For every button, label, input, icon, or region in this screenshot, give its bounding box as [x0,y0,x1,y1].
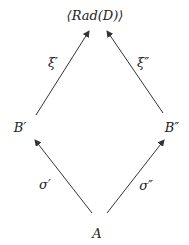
arrow-xi-double-prime [107,31,163,113]
label-sigma-prime: σ′ [39,178,51,191]
node-a: A [92,227,101,240]
arrow-xi-prime [36,31,89,115]
label-xi-prime: ξ′ [48,56,58,69]
diagram-arrows [0,0,189,245]
node-b-prime: B′ [14,121,27,134]
node-rad-d: ⟨Rad(D)⟩ [67,9,124,22]
label-sigma-double-prime: σ″ [139,179,153,192]
arrow-sigma-double-prime [107,140,164,213]
node-b-double-prime: B″ [165,121,179,134]
label-xi-double-prime: ξ″ [137,56,149,69]
